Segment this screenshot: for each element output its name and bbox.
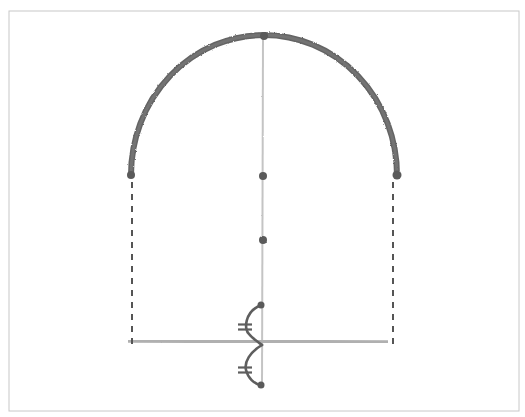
connector-lower-curve	[246, 345, 262, 385]
midpoint-dot	[259, 236, 267, 244]
frame-border	[9, 11, 519, 411]
diagram-canvas	[0, 0, 525, 417]
construction-points	[127, 32, 402, 389]
center-axis-line	[262, 35, 263, 385]
arc-apex-dot	[260, 32, 268, 40]
center-point-dot	[259, 172, 267, 180]
semicircle-arc	[131, 35, 397, 175]
arc-right-endpoint-dot	[393, 171, 402, 180]
connector-top-point-dot	[258, 302, 265, 309]
connector-bottom-point-dot	[258, 382, 265, 389]
arc-left-endpoint-dot	[127, 171, 135, 179]
semicircle-arc-highlight	[131, 35, 397, 175]
